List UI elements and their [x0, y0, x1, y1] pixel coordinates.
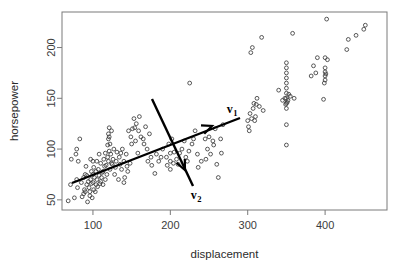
eigenvector-v2-subscript: 2 — [197, 194, 201, 204]
chart-page: 100200300400 50100150200 displacement ho… — [0, 0, 403, 274]
x-tick-label: 400 — [316, 219, 334, 231]
y-tick-label: 50 — [45, 194, 57, 206]
y-tick-label: 200 — [45, 38, 57, 56]
x-tick-label: 300 — [239, 219, 257, 231]
scatter-plot-figure: 100200300400 50100150200 displacement ho… — [0, 0, 403, 274]
x-tick-label: 200 — [161, 219, 179, 231]
eigenvector-v1-subscript: 1 — [233, 108, 237, 118]
y-tick-label: 100 — [45, 140, 57, 158]
y-tick-label: 150 — [45, 89, 57, 107]
x-axis-title: displacement — [191, 248, 260, 260]
plot-background — [0, 0, 403, 274]
y-axis-title: horsepower — [8, 81, 20, 141]
x-tick-label: 100 — [84, 219, 102, 231]
